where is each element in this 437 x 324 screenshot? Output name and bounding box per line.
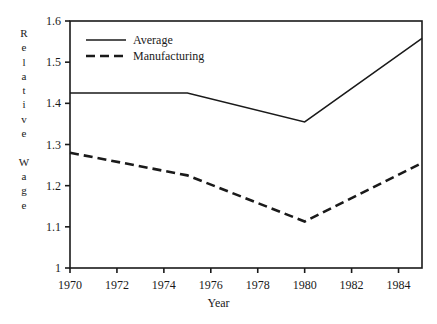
series-line-average [70,38,422,122]
axis-box [70,21,422,268]
relative-wage-line-chart: Relative Wage 11.11.21.31.41.51.6 197019… [0,0,437,324]
axis-frame [70,21,422,268]
axis-ticks [65,21,399,273]
series-line-manufacturing [70,153,422,222]
data-series-lines [70,38,422,221]
plot-area [0,0,437,324]
